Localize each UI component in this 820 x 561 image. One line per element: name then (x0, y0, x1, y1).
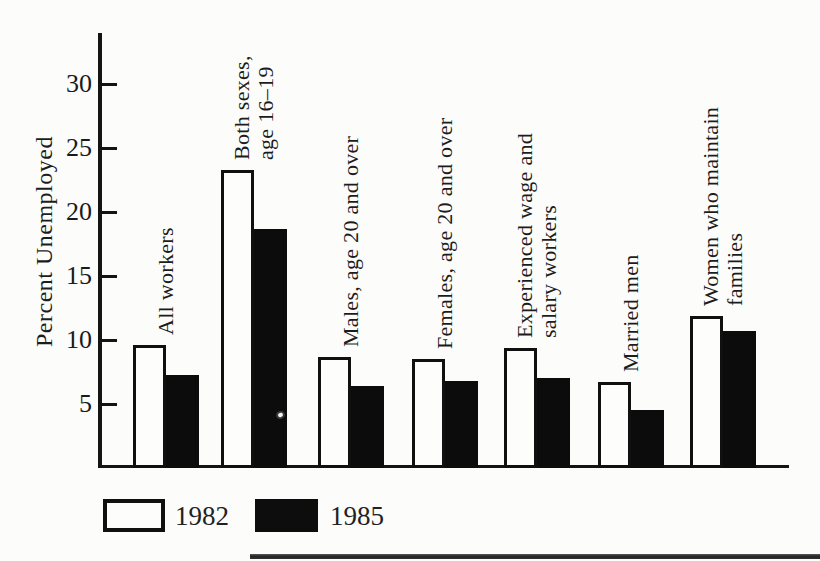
category-label-3: Males, age 20 and over (339, 136, 363, 347)
page-rule (250, 554, 820, 559)
bar-1982-group-6 (598, 382, 631, 468)
y-tick-label-10: 10 (50, 325, 92, 355)
category-label-line: age 16–19 (254, 55, 278, 160)
bar-1985-group-2 (254, 229, 287, 468)
bar-1985-group-1 (166, 375, 199, 468)
bar-1985-group-7 (723, 331, 756, 468)
category-label-line: All workers (154, 227, 178, 335)
bar-1982-group-5 (504, 348, 537, 468)
bar-1982-group-2 (221, 170, 254, 468)
category-label-7: Women who maintainfamilies (699, 107, 747, 306)
legend-label-1982: 1982 (175, 500, 229, 533)
y-tick-mark-15 (100, 275, 117, 278)
y-tick-label-15: 15 (50, 261, 92, 291)
bar-1982-group-4 (412, 359, 445, 468)
legend-swatch-1985 (255, 499, 318, 532)
y-tick-mark-20 (100, 211, 117, 214)
category-label-6: Married men (619, 254, 643, 372)
category-label-line: salary workers (537, 133, 561, 338)
category-label-line: Males, age 20 and over (339, 136, 363, 347)
category-label-line: Women who maintain (699, 107, 723, 306)
y-tick-mark-25 (100, 147, 117, 150)
bar-1982-group-7 (690, 316, 723, 468)
bar-1985-group-5 (537, 378, 570, 468)
y-tick-label-25: 25 (50, 133, 92, 163)
unemployment-bar-chart: Percent Unemployed 51015202530 All worke… (0, 0, 820, 561)
category-label-line: families (723, 107, 747, 306)
category-label-4: Females, age 20 and over (433, 118, 457, 349)
y-tick-label-20: 20 (50, 197, 92, 227)
y-tick-mark-30 (100, 83, 117, 86)
category-label-2: Both sexes,age 16–19 (230, 55, 278, 160)
category-label-5: Experienced wage andsalary workers (513, 133, 561, 338)
bar-1985-group-4 (445, 381, 478, 468)
legend-label-1985: 1985 (330, 500, 384, 533)
category-label-1: All workers (154, 227, 178, 335)
bar-1985-group-6 (631, 410, 664, 468)
y-tick-label-30: 30 (50, 69, 92, 99)
y-axis-title: Percent Unemployed (31, 136, 58, 347)
bar-1985-group-3 (351, 386, 384, 468)
bar-1982-group-3 (318, 357, 351, 468)
bar-1982-group-1 (133, 345, 166, 468)
category-label-line: Experienced wage and (513, 133, 537, 338)
y-tick-mark-10 (100, 339, 117, 342)
category-label-line: Both sexes, (230, 55, 254, 160)
y-tick-label-5: 5 (50, 389, 92, 419)
y-tick-mark-5 (100, 403, 117, 406)
category-label-line: Females, age 20 and over (433, 118, 457, 349)
legend-swatch-1982 (103, 499, 165, 532)
category-label-line: Married men (619, 254, 643, 372)
